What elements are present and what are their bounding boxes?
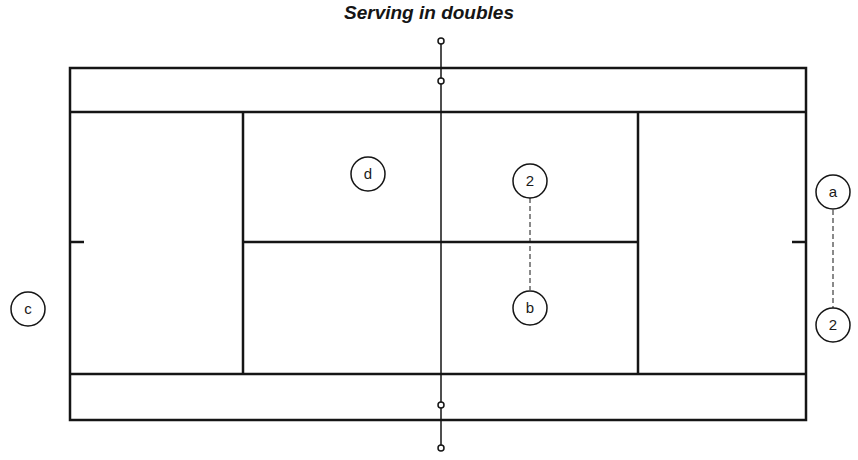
player-marker-c: c — [11, 292, 45, 326]
player-label: 2 — [829, 316, 837, 333]
court-outer-boundary — [70, 68, 806, 420]
player-label: 2 — [526, 172, 534, 189]
player-label: c — [24, 300, 32, 317]
player-marker-pos2-near-b: 2 — [816, 308, 850, 342]
court-lines — [70, 68, 806, 420]
player-label: b — [526, 299, 534, 316]
net-post-bottom-inner — [438, 402, 444, 408]
player-marker-b: b — [513, 291, 547, 325]
movement-paths — [530, 198, 833, 308]
net — [438, 38, 444, 451]
tennis-court-diagram: dcab22 — [0, 0, 858, 460]
player-markers: dcab22 — [11, 157, 850, 342]
net-post-top-inner — [438, 78, 444, 84]
player-label: a — [829, 183, 838, 200]
net-post-bottom-outer — [438, 445, 444, 451]
player-marker-a: a — [816, 175, 850, 209]
player-label: d — [364, 165, 372, 182]
player-marker-pos2-right: 2 — [513, 164, 547, 198]
player-marker-d: d — [351, 157, 385, 191]
net-post-top-outer — [438, 38, 444, 44]
